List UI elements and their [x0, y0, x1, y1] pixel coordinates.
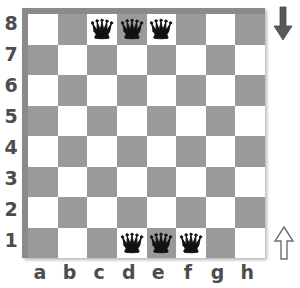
square-b2[interactable] [58, 197, 88, 228]
square-a3[interactable] [28, 167, 58, 198]
square-a1[interactable] [28, 228, 58, 259]
arrow-down-icon [271, 6, 295, 42]
square-f3[interactable] [176, 167, 206, 198]
file-label-h: h [232, 258, 262, 286]
chessboard-diagram: 87654321 abcdefgh [0, 0, 300, 288]
square-c6[interactable] [87, 75, 117, 106]
black-queen-icon[interactable] [117, 14, 147, 45]
square-d8[interactable] [117, 14, 147, 45]
file-label-b: b [55, 258, 85, 286]
arrow-up-icon [272, 225, 296, 261]
square-e3[interactable] [147, 167, 177, 198]
square-d3[interactable] [117, 167, 147, 198]
rank-label-2: 2 [0, 194, 22, 225]
square-c5[interactable] [87, 106, 117, 137]
file-label-g: g [203, 258, 233, 286]
rank-label-8: 8 [0, 8, 22, 39]
square-g4[interactable] [206, 136, 236, 167]
square-f4[interactable] [176, 136, 206, 167]
square-c7[interactable] [87, 45, 117, 76]
square-d2[interactable] [117, 197, 147, 228]
square-e1[interactable] [147, 228, 177, 259]
square-b8[interactable] [58, 14, 88, 45]
square-g1[interactable] [206, 228, 236, 259]
square-b6[interactable] [58, 75, 88, 106]
square-d5[interactable] [117, 106, 147, 137]
square-e8[interactable] [147, 14, 177, 45]
black-queen-icon[interactable] [176, 228, 206, 259]
file-label-a: a [25, 258, 55, 286]
board-frame [22, 8, 265, 258]
black-queen-icon[interactable] [147, 14, 177, 45]
square-a8[interactable] [28, 14, 58, 45]
square-g3[interactable] [206, 167, 236, 198]
black-queen-icon[interactable] [117, 228, 147, 259]
square-h4[interactable] [235, 136, 265, 167]
square-h2[interactable] [235, 197, 265, 228]
square-g2[interactable] [206, 197, 236, 228]
black-queen-icon[interactable] [147, 228, 177, 259]
rank-label-4: 4 [0, 132, 22, 163]
square-h1[interactable] [235, 228, 265, 259]
square-a7[interactable] [28, 45, 58, 76]
square-c3[interactable] [87, 167, 117, 198]
square-a2[interactable] [28, 197, 58, 228]
square-b3[interactable] [58, 167, 88, 198]
square-e2[interactable] [147, 197, 177, 228]
square-d4[interactable] [117, 136, 147, 167]
square-a5[interactable] [28, 106, 58, 137]
file-labels: abcdefgh [25, 258, 262, 286]
square-c2[interactable] [87, 197, 117, 228]
file-label-d: d [114, 258, 144, 286]
square-d7[interactable] [117, 45, 147, 76]
square-h8[interactable] [235, 14, 265, 45]
square-b4[interactable] [58, 136, 88, 167]
square-f1[interactable] [176, 228, 206, 259]
square-b1[interactable] [58, 228, 88, 259]
rank-labels: 87654321 [0, 8, 22, 256]
square-f8[interactable] [176, 14, 206, 45]
rank-label-1: 1 [0, 225, 22, 256]
square-h5[interactable] [235, 106, 265, 137]
rank-label-3: 3 [0, 163, 22, 194]
square-a4[interactable] [28, 136, 58, 167]
square-g5[interactable] [206, 106, 236, 137]
board-grid [28, 14, 265, 258]
file-label-e: e [144, 258, 174, 286]
rank-label-6: 6 [0, 70, 22, 101]
square-e4[interactable] [147, 136, 177, 167]
square-h3[interactable] [235, 167, 265, 198]
square-f5[interactable] [176, 106, 206, 137]
square-g8[interactable] [206, 14, 236, 45]
file-label-f: f [173, 258, 203, 286]
square-c4[interactable] [87, 136, 117, 167]
square-e7[interactable] [147, 45, 177, 76]
square-f2[interactable] [176, 197, 206, 228]
square-g7[interactable] [206, 45, 236, 76]
black-queen-icon[interactable] [87, 14, 117, 45]
square-b7[interactable] [58, 45, 88, 76]
square-a6[interactable] [28, 75, 58, 106]
square-c1[interactable] [87, 228, 117, 259]
square-h6[interactable] [235, 75, 265, 106]
square-f6[interactable] [176, 75, 206, 106]
square-f7[interactable] [176, 45, 206, 76]
square-e5[interactable] [147, 106, 177, 137]
square-d1[interactable] [117, 228, 147, 259]
square-b5[interactable] [58, 106, 88, 137]
rank-label-5: 5 [0, 101, 22, 132]
square-e6[interactable] [147, 75, 177, 106]
square-d6[interactable] [117, 75, 147, 106]
square-g6[interactable] [206, 75, 236, 106]
file-label-c: c [84, 258, 114, 286]
square-c8[interactable] [87, 14, 117, 45]
square-h7[interactable] [235, 45, 265, 76]
rank-label-7: 7 [0, 39, 22, 70]
